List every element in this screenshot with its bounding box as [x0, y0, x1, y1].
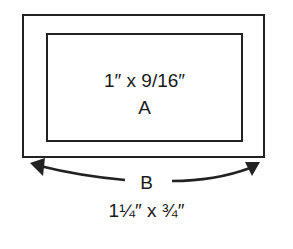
outer-dimension-label: 1¼″ x ¾″ [0, 201, 293, 221]
outer-letter-label: B [0, 173, 293, 193]
